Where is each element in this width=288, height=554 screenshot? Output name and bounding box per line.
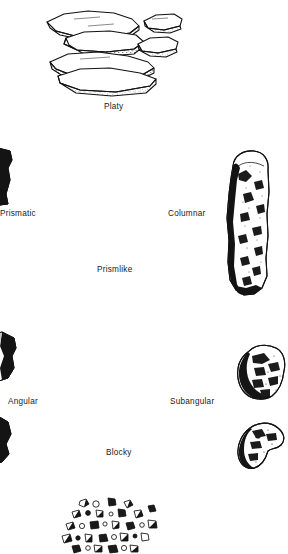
columnar-ped-illustration xyxy=(216,148,274,298)
subangular-blocky-ped-upper-illustration xyxy=(234,342,288,404)
platy-peds-illustration xyxy=(44,6,184,98)
label-prismatic: Prismatic xyxy=(0,208,36,219)
granular-peds-illustration xyxy=(58,496,168,554)
label-platy: Platy xyxy=(104,101,123,112)
label-blocky: Blocky xyxy=(106,447,132,458)
prismatic-ped-illustration xyxy=(0,146,20,208)
label-angular: Angular xyxy=(8,396,38,407)
angular-blocky-ped-lower-illustration xyxy=(0,412,16,468)
soil-structure-figure: Platy Prismatic xyxy=(0,0,288,554)
label-subangular: Subangular xyxy=(170,396,214,407)
label-prismlike: Prismlike xyxy=(97,264,132,275)
angular-blocky-ped-upper-illustration xyxy=(0,330,20,386)
label-columnar: Columnar xyxy=(168,208,206,219)
subangular-blocky-ped-lower-illustration xyxy=(234,418,288,476)
